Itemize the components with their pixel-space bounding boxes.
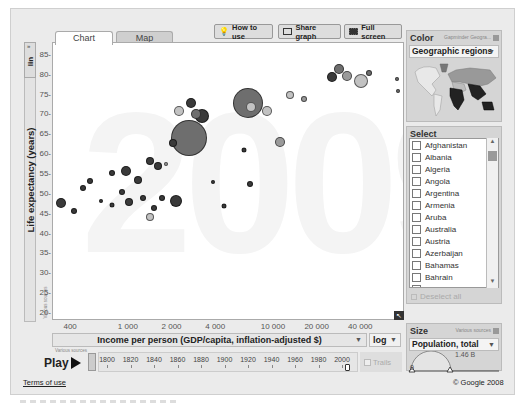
- country-bubble[interactable]: [87, 178, 93, 184]
- country-bubble[interactable]: [154, 162, 162, 170]
- country-bubble[interactable]: [99, 199, 103, 203]
- play-button[interactable]: Play: [44, 356, 81, 370]
- full-screen-button[interactable]: Full screen: [344, 24, 402, 39]
- terms-of-use-link[interactable]: Terms of use: [23, 378, 66, 387]
- world-map-legend[interactable]: [410, 60, 500, 118]
- color-dropdown[interactable]: Geographic regions ▼: [409, 45, 499, 58]
- year-tick-label: 1840: [146, 356, 162, 363]
- country-bubble[interactable]: [151, 205, 157, 211]
- how-to-use-button[interactable]: 💡 How to use: [214, 24, 273, 39]
- country-checkbox[interactable]: [412, 177, 421, 186]
- size-source-note[interactable]: Various sources: [456, 327, 491, 333]
- country-checkbox[interactable]: [412, 213, 421, 222]
- country-bubble[interactable]: [191, 109, 201, 119]
- country-list-item[interactable]: Albania: [410, 151, 498, 163]
- country-checkbox[interactable]: [412, 141, 421, 150]
- country-bubble[interactable]: [119, 189, 125, 195]
- country-checkbox[interactable]: [412, 285, 421, 289]
- country-checkbox[interactable]: [412, 153, 421, 162]
- size-legend[interactable]: [407, 351, 501, 373]
- country-list-item[interactable]: Algeria: [410, 163, 498, 175]
- deselect-all-button[interactable]: Deselect all: [411, 292, 461, 301]
- x-scale-select[interactable]: log ▼: [369, 333, 401, 347]
- country-bubble[interactable]: [146, 213, 154, 221]
- country-bubble[interactable]: [186, 98, 196, 108]
- country-bubble[interactable]: [342, 71, 352, 81]
- country-list-scrollbar[interactable]: ▲ ▼: [486, 138, 498, 288]
- country-bubble[interactable]: [396, 89, 400, 93]
- scroll-down-icon[interactable]: ▼: [487, 278, 498, 288]
- country-bubble[interactable]: [247, 181, 253, 187]
- scroll-up-icon[interactable]: ▲: [487, 138, 498, 148]
- country-list-item[interactable]: Bahamas: [410, 259, 498, 271]
- country-bubble[interactable]: [56, 198, 66, 208]
- country-bubble[interactable]: [125, 198, 133, 206]
- country-bubble[interactable]: [327, 72, 337, 82]
- country-bubble[interactable]: [164, 162, 168, 166]
- y-scale-toggle[interactable]: » lin: [24, 42, 36, 78]
- country-bubble[interactable]: [80, 185, 86, 191]
- country-bubble[interactable]: [246, 102, 256, 112]
- size-dropdown[interactable]: Population, total ▼: [409, 338, 499, 351]
- country-checkbox[interactable]: [412, 261, 421, 270]
- country-bubble[interactable]: [109, 170, 115, 176]
- country-bubble[interactable]: [286, 91, 294, 99]
- country-bubble[interactable]: [241, 148, 246, 153]
- menu-icon[interactable]: [493, 35, 499, 41]
- country-list-item[interactable]: Afghanistan: [410, 139, 498, 151]
- country-bubble[interactable]: [170, 195, 182, 207]
- country-label: Albania: [425, 153, 452, 162]
- lightbulb-icon: 💡: [219, 27, 229, 36]
- country-list-item[interactable]: Bahrain: [410, 271, 498, 283]
- country-bubble[interactable]: [171, 120, 207, 156]
- country-bubble[interactable]: [140, 195, 146, 201]
- country-checkbox[interactable]: [412, 189, 421, 198]
- time-slider-thumb[interactable]: [345, 364, 350, 371]
- country-bubble[interactable]: [262, 106, 272, 116]
- country-bubble[interactable]: [71, 208, 77, 214]
- country-list-item[interactable]: Austria: [410, 235, 498, 247]
- country-bubble[interactable]: [174, 106, 184, 116]
- country-list-item[interactable]: Australia: [410, 223, 498, 235]
- scroll-thumb[interactable]: [488, 151, 497, 161]
- country-checkbox[interactable]: [412, 273, 421, 282]
- country-bubble[interactable]: [301, 96, 307, 102]
- country-checkbox[interactable]: [412, 225, 421, 234]
- country-bubble[interactable]: [366, 70, 372, 76]
- trails-checkbox[interactable]: [364, 359, 371, 366]
- country-list-item[interactable]: Bangladesh: [410, 283, 498, 288]
- country-bubble[interactable]: [395, 77, 399, 81]
- y-axis-title[interactable]: Life expectancy (years): [25, 127, 36, 232]
- country-list-item[interactable]: Azerbaijan: [410, 247, 498, 259]
- x-axis-selector[interactable]: Income per person (GDP/capita, inflation…: [52, 333, 367, 347]
- time-slider[interactable]: 1800182018401860188019001920194019601980…: [98, 352, 358, 372]
- tab-chart[interactable]: Chart: [55, 31, 113, 45]
- expand-icon[interactable]: ↖: [394, 311, 404, 320]
- country-bubble[interactable]: [146, 157, 154, 165]
- country-label: Afghanistan: [425, 141, 467, 150]
- country-checkbox[interactable]: [412, 165, 421, 174]
- x-source-note[interactable]: Various sources: [55, 348, 87, 353]
- country-list-item[interactable]: Armenia: [410, 199, 498, 211]
- country-bubble[interactable]: [354, 74, 368, 88]
- country-bubble[interactable]: [211, 180, 215, 184]
- country-bubble[interactable]: [159, 195, 165, 201]
- country-bubble[interactable]: [109, 202, 114, 207]
- menu-icon[interactable]: [493, 328, 499, 334]
- country-checkbox[interactable]: [412, 249, 421, 258]
- share-graph-button[interactable]: Share graph: [278, 24, 341, 39]
- country-checkbox[interactable]: [412, 201, 421, 210]
- country-bubble[interactable]: [275, 137, 285, 147]
- trails-toggle[interactable]: Trails: [360, 352, 402, 372]
- country-list-item[interactable]: Angola: [410, 175, 498, 187]
- country-bubble[interactable]: [121, 166, 131, 176]
- speed-slider[interactable]: [88, 353, 96, 371]
- country-checkbox[interactable]: [412, 237, 421, 246]
- country-bubble[interactable]: [169, 139, 177, 147]
- country-bubble[interactable]: [134, 176, 142, 184]
- country-list-item[interactable]: Aruba: [410, 211, 498, 223]
- country-bubble[interactable]: [221, 203, 226, 208]
- color-source-note[interactable]: Gapminder Geogra...: [444, 34, 491, 40]
- chart-plot-area[interactable]: 2009: [52, 42, 404, 320]
- country-list-item[interactable]: Argentina: [410, 187, 498, 199]
